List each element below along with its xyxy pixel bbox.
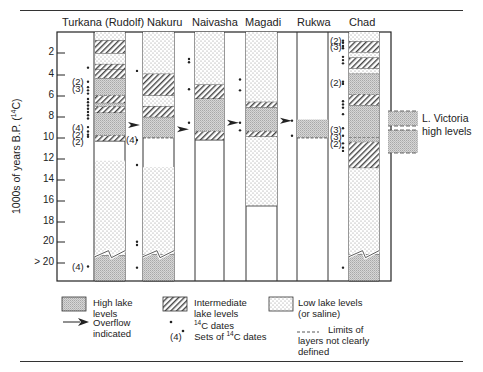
c14-date-dot — [87, 101, 89, 103]
c14-date-dot — [87, 130, 89, 132]
layer-intermediate — [95, 107, 125, 113]
victoria-panel — [388, 111, 418, 153]
c14-date-dot — [342, 59, 344, 61]
layer-high — [349, 74, 379, 95]
date-set-label: (3) — [72, 83, 84, 94]
layer-high — [195, 99, 224, 131]
layer-intermediate — [95, 96, 125, 104]
c14-date-dot — [87, 81, 89, 83]
c14-date-dot — [239, 89, 241, 91]
c14-date-dot — [342, 103, 344, 105]
c14-date-dot — [239, 122, 241, 124]
layer-low — [349, 32, 379, 42]
y-tick-label: 12 — [43, 152, 54, 163]
c14-date-dot — [342, 146, 344, 148]
c14-date-dot — [342, 100, 344, 102]
c14-date-dot — [136, 244, 138, 246]
layer-low — [195, 32, 224, 85]
layer-intermediate — [195, 85, 224, 99]
layer-high — [349, 106, 379, 138]
c14-date-dot — [342, 45, 344, 47]
date-set-label: (4) — [126, 134, 138, 145]
y-ticks — [57, 53, 65, 263]
c14-date-dot — [291, 119, 293, 121]
c14-date-dot — [188, 88, 190, 90]
c14-date-dot — [87, 136, 89, 138]
c14-date-dot — [342, 106, 344, 108]
c14-date-dot — [136, 266, 138, 268]
layer-intermediate — [95, 41, 125, 54]
layer-low — [246, 137, 277, 206]
legend-intermediate: Intermediate lake levels — [194, 297, 247, 319]
victoria-label-2: high levels — [422, 125, 472, 137]
c14-date-dot — [342, 42, 344, 44]
layer-low — [349, 69, 379, 74]
layer-low — [143, 96, 174, 107]
layer-low — [95, 32, 125, 41]
layer-intermediate — [349, 42, 379, 53]
c14-date-dot — [239, 78, 241, 80]
c14-date-dot — [342, 62, 344, 64]
c14-date-dot — [136, 164, 138, 166]
legend-limits: Limits of layers not clearly defined — [298, 324, 369, 357]
layer-intermediate — [95, 136, 125, 141]
y-axis-label: 1000s of years B.P. (14C) — [10, 98, 23, 214]
layer-low — [95, 161, 125, 256]
c14-date-dot — [342, 56, 344, 58]
c14-date-dot — [136, 240, 138, 242]
layer-low — [349, 53, 379, 58]
y-tick-label: 16 — [43, 194, 54, 205]
y-tick-label: 2 — [48, 46, 54, 57]
layer-intermediate — [143, 74, 174, 96]
c14-date-dot — [188, 122, 190, 124]
c14-date-dot — [342, 142, 344, 144]
layer-low — [95, 54, 125, 65]
column-header: Magadi — [245, 16, 281, 28]
layer-low — [246, 32, 277, 102]
date-set-label: (2) — [330, 138, 342, 149]
c14-date-dot — [342, 39, 344, 41]
layer-low — [143, 32, 174, 74]
c14-date-dot — [87, 89, 89, 91]
date-set-label: (3) — [330, 41, 342, 52]
column-header: Rukwa — [297, 16, 331, 28]
c14-date-dot — [342, 135, 344, 137]
layer-intermediate — [349, 142, 379, 168]
y-tick-label: 8 — [48, 110, 54, 121]
overflow-arrow — [280, 118, 292, 124]
column-header: Chad — [349, 16, 375, 28]
layer-intermediate — [349, 95, 379, 106]
layer-high — [95, 256, 125, 281]
layer-high — [246, 108, 277, 132]
y-tick-label: 10 — [43, 131, 54, 142]
c14-date-dot — [239, 129, 241, 131]
c14-date-dot — [291, 135, 293, 137]
legend-sets: (4) Sets of 14C dates — [170, 328, 266, 342]
layer-low — [349, 168, 379, 254]
layer-high — [143, 255, 174, 281]
c14-date-dot — [342, 266, 344, 268]
date-set-label: (2) — [72, 136, 84, 147]
y-tick-label: 6 — [48, 89, 54, 100]
y-tick-label: 4 — [48, 68, 54, 79]
column-header: Turkana (Rudolf) — [62, 16, 144, 28]
c14-date-dot — [342, 113, 344, 115]
layer-high — [95, 113, 125, 136]
y-tick-label: 18 — [43, 215, 54, 226]
layer-high — [349, 255, 379, 281]
legend-overflow: Overflow indicated — [93, 317, 131, 339]
c14-date-dot — [188, 61, 190, 63]
c14-date-dot — [342, 81, 344, 83]
layer-high — [95, 78, 125, 95]
overflow-arrow — [227, 120, 239, 126]
overflow-arrow — [128, 122, 140, 128]
layer-high — [297, 120, 328, 138]
c14-date-dot — [87, 133, 89, 135]
layer-high — [143, 117, 174, 138]
c14-date-dot — [87, 98, 89, 100]
c14-date-dot — [87, 108, 89, 110]
legend-low: Low lake levels (or saline) — [298, 297, 362, 319]
y-tick-label: 14 — [43, 173, 54, 184]
c14-date-dot — [87, 66, 89, 68]
layer-high — [349, 138, 379, 142]
